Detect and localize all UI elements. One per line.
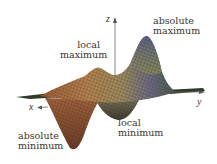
label-local-maximum: local maximum	[60, 40, 100, 60]
label-line: maximum	[153, 26, 200, 36]
y-axis-label: y	[197, 96, 201, 107]
label-line: maximum	[60, 50, 100, 60]
label-line: minimum	[118, 128, 163, 138]
label-line: minimum	[18, 141, 63, 151]
x-axis	[37, 106, 48, 110]
z-axis-label: z	[106, 13, 110, 24]
label-absolute-maximum: absolute maximum	[153, 16, 200, 36]
label-local-minimum: local minimum	[118, 118, 163, 138]
label-absolute-minimum: absolute minimum	[18, 131, 63, 151]
x-axis-label: x	[29, 101, 33, 112]
